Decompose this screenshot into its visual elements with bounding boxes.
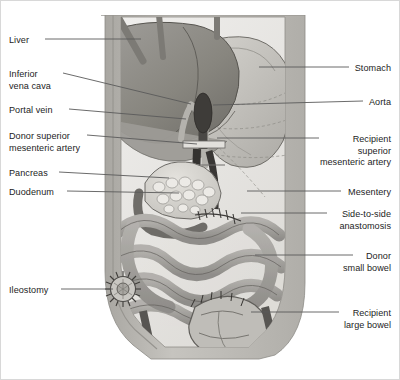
label-ileostomy: Ileostomy: [9, 285, 48, 297]
label-recipient-superior-mesenteric-artery: Recipient superior mesenteric artery: [320, 134, 391, 169]
leader-lines: [1, 1, 400, 380]
label-side-to-side-anastomosis: Side-to-side anastomosis: [339, 209, 391, 232]
figure-panel: Liver Inferior vena cava Portal vein Don…: [0, 0, 400, 380]
label-portal-vein: Portal vein: [9, 105, 53, 117]
label-aorta: Aorta: [369, 97, 391, 109]
label-donor-superior-mesenteric-artery: Donor superior mesenteric artery: [9, 131, 80, 154]
label-inferior-vena-cava: Inferior vena cava: [9, 69, 51, 92]
label-stomach: Stomach: [355, 63, 391, 75]
label-donor-small-bowel: Donor small bowel: [343, 251, 391, 274]
label-duodenum: Duodenum: [9, 187, 54, 199]
label-pancreas: Pancreas: [9, 168, 48, 180]
label-mesentery: Mesentery: [348, 187, 391, 199]
label-liver: Liver: [9, 35, 29, 47]
label-recipient-large-bowel: Recipient large bowel: [344, 308, 391, 331]
